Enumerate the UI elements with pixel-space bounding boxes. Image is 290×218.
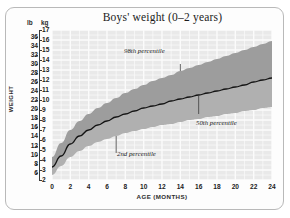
x-tick-6: 6: [100, 183, 114, 190]
y-tick-mark-lb-12: [36, 146, 38, 147]
y-tick-mark-lb-24: [36, 91, 38, 92]
y-tick-mark-lb-14: [36, 136, 38, 137]
annotation-98th-percentile: 98th percentile: [124, 47, 165, 54]
y-tick-mark-lb-6: [36, 173, 38, 174]
y-tick-mark-lb-28: [36, 73, 38, 74]
unit-label-lb: lb: [27, 19, 33, 26]
y-tick-mark-kg-2: [39, 180, 42, 181]
x-tick-12: 12: [155, 183, 169, 190]
y-axis-spine: [39, 30, 40, 180]
x-tick-8: 8: [118, 183, 132, 190]
x-tick-14: 14: [173, 183, 187, 190]
x-tick-2: 2: [63, 183, 77, 190]
y-tick-mark-lb-32: [36, 55, 38, 56]
y-axis-label: WEIGHT: [8, 79, 14, 119]
x-tick-16: 16: [192, 183, 206, 190]
x-tick-18: 18: [210, 183, 224, 190]
x-tick-10: 10: [137, 183, 151, 190]
x-tick-20: 20: [228, 183, 242, 190]
unit-label-kg: kg: [41, 19, 48, 26]
y-tick-mark-lb-18: [36, 118, 38, 119]
annotation-2nd-percentile: 2nd percentile: [117, 150, 156, 157]
chart-title: Boys' weight (0–2 years): [50, 11, 275, 23]
x-tick-0: 0: [45, 183, 59, 190]
y-tick-mark-lb-20: [36, 109, 38, 110]
y-tick-mark-lb-16: [36, 127, 38, 128]
y-tick-mark-lb-36: [36, 37, 38, 38]
y-tick-mark-lb-26: [36, 82, 38, 83]
y-tick-mark-lb-10: [36, 155, 38, 156]
y-tick-mark-lb-22: [36, 100, 38, 101]
y-tick-mark-lb-30: [36, 64, 38, 65]
x-tick-22: 22: [247, 183, 261, 190]
growth-chart-figure: Boys' weight (0–2 years) lb kg WEIGHT AG…: [0, 0, 290, 218]
x-tick-4: 4: [82, 183, 96, 190]
y-tick-mark-lb-8: [36, 164, 38, 165]
x-tick-24: 24: [265, 183, 279, 190]
x-axis-label: AGE (MONTHS): [52, 193, 272, 200]
annotation-50th-percentile: 50th percentile: [196, 119, 237, 126]
y-tick-mark-lb-34: [36, 46, 38, 47]
